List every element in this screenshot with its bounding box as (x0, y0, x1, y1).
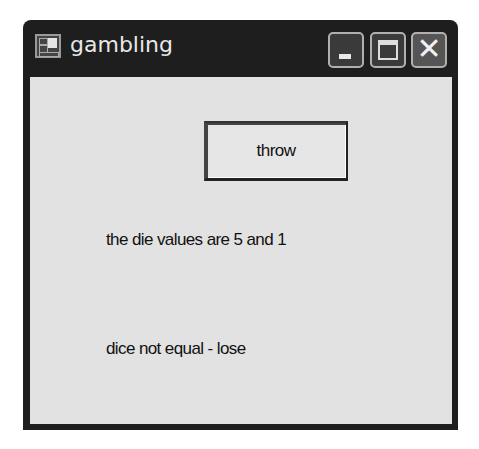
close-button[interactable]: ✕ (411, 32, 447, 68)
icon-part (39, 38, 48, 45)
maximize-icon (378, 40, 398, 60)
title-bar[interactable]: gambling ✕ (23, 20, 458, 77)
icon-part (39, 52, 59, 57)
result-label: dice not equal - lose (106, 339, 246, 359)
minimize-icon (339, 54, 351, 59)
maximize-button[interactable] (370, 32, 406, 68)
icon-part (48, 38, 57, 48)
app-window-icon[interactable] (35, 34, 61, 58)
app-window: gambling ✕ throw the die values are 5 an… (23, 20, 458, 430)
window-title: gambling (70, 32, 173, 57)
minimize-button[interactable] (328, 32, 364, 68)
die-values-label: the die values are 5 and 1 (106, 230, 286, 250)
client-area: throw the die values are 5 and 1 dice no… (30, 77, 452, 424)
throw-button[interactable]: throw (204, 121, 348, 181)
close-icon: ✕ (413, 31, 445, 67)
